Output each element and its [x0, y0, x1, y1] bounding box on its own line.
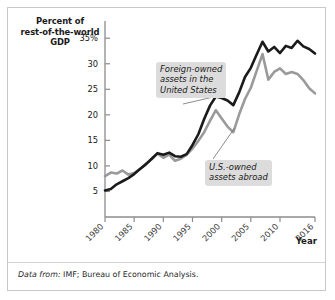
us-owned-callout: U.S.-owned assets abroad [205, 160, 272, 186]
x-tick-label: 2005 [229, 221, 251, 243]
plot-region: Percent of rest-of-the-world GDP Year 51… [8, 8, 325, 256]
y-tick-label: 20 [87, 110, 98, 120]
y-tick-label: 5 [93, 186, 98, 196]
x-tick-label: 1995 [171, 221, 193, 243]
x-tick-label: 2010 [258, 221, 280, 243]
source-note-text: IMF; Bureau of Economic Analysis. [61, 270, 199, 279]
x-tick-label: 2016 [293, 221, 315, 243]
source-note: Data from: IMF; Bureau of Economic Analy… [18, 270, 198, 279]
x-tick-label: 1990 [142, 221, 164, 243]
y-tick-label: 25 [87, 84, 98, 94]
chart-figure: Percent of rest-of-the-world GDP Year 51… [7, 7, 326, 291]
x-tick-label: 1980 [83, 221, 105, 243]
source-note-lead: Data from: [18, 270, 61, 279]
y-tick-labels: 5101520253035% [80, 33, 99, 196]
foreign-owned-callout: Foreign-owned assets in the United State… [156, 62, 226, 98]
y-tick-label: 30 [87, 59, 98, 69]
x-tick-label: 1985 [113, 221, 135, 243]
x-tick-label: 2000 [200, 221, 222, 243]
footer-divider [8, 262, 325, 263]
callout-leader-line [213, 128, 235, 159]
chart-canvas: 5101520253035% 1980198519901995200020052… [8, 8, 325, 256]
y-tick-label: 35% [80, 33, 99, 43]
x-tick-labels: 19801985199019952000200520102016 [83, 221, 315, 243]
y-tick-label: 15 [87, 135, 98, 145]
y-tick-label: 10 [87, 161, 98, 171]
